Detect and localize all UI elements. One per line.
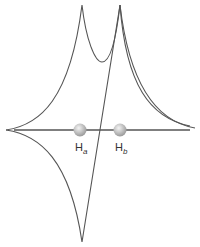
label-hb-sub: b — [123, 147, 127, 156]
label-hb: Hb — [115, 141, 127, 156]
label-ha-text: H — [75, 141, 83, 153]
label-ha: Ha — [75, 141, 87, 156]
nucleus-ha — [74, 124, 87, 137]
right-tail-curve — [120, 5, 190, 126]
label-ha-sub: a — [83, 147, 87, 156]
upper-curve — [6, 5, 195, 130]
label-hb-text: H — [115, 141, 123, 153]
diagram-canvas — [0, 0, 200, 247]
nucleus-hb — [114, 124, 127, 137]
lower-curve — [6, 5, 120, 242]
